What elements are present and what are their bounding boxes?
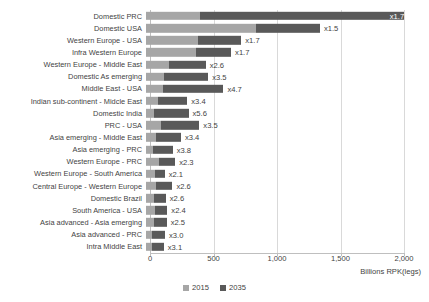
bar-row: Central Europe - Western Europex2.6 (0, 180, 429, 192)
category-label: Infra Western Europe (0, 48, 146, 57)
growth-multiplier-label: x3.0 (165, 230, 183, 239)
category-label: South America - USA (0, 206, 146, 215)
bar-segment-2035 (155, 206, 167, 214)
category-label: Asia advanced - Asia emerging (0, 218, 146, 227)
category-label: Asia emerging - Middle East (0, 133, 146, 142)
bar-row: Western Europe - South Americax2.1 (0, 168, 429, 180)
bar-segment-2015 (146, 12, 200, 20)
stacked-bar[interactable] (146, 133, 181, 141)
growth-multiplier-label: x2.5 (167, 218, 185, 227)
bar-segment-2035 (256, 24, 320, 32)
bar-segment-2035 (159, 158, 176, 166)
growth-multiplier-label: x2.6 (166, 194, 184, 203)
bar-segment-2015 (146, 218, 154, 226)
stacked-bar[interactable] (146, 121, 199, 129)
legend-label: 2015 (192, 283, 209, 292)
stacked-bar[interactable] (146, 230, 165, 238)
stacked-bar[interactable] (146, 194, 166, 202)
legend-swatch-icon (220, 285, 226, 291)
bar-track: x2.3 (146, 156, 429, 168)
bar-segment-2015 (146, 182, 156, 190)
stacked-bar[interactable] (146, 85, 223, 93)
category-label: Middle East - USA (0, 84, 146, 93)
bar-row: Domestic USAx1.5 (0, 22, 429, 34)
category-label: Indian sub-continent - Midcle East (0, 97, 146, 106)
bar-segment-2015 (146, 206, 155, 214)
bar-segment-2035 (152, 243, 164, 251)
category-label: Western Europe - South America (0, 169, 146, 178)
category-label: Western Europe - Middle East (0, 60, 146, 69)
bar-row: Western Europe - PRCx2.3 (0, 156, 429, 168)
bar-segment-2035 (152, 230, 165, 238)
bar-segment-2015 (146, 36, 198, 44)
x-tick-label: 1,500 (331, 254, 350, 263)
legend-item[interactable]: 2015 (183, 283, 209, 292)
growth-multiplier-label: x2.6 (172, 182, 190, 191)
stacked-bar[interactable] (146, 97, 187, 105)
bar-row: Asia emerging - PRCx3.8 (0, 144, 429, 156)
bar-row: Asia advanced - Asia emergingx2.5 (0, 216, 429, 228)
growth-multiplier-label: x1.7 (241, 36, 259, 45)
x-tick-label: 2,000 (394, 254, 413, 263)
legend-swatch-icon (183, 285, 189, 291)
legend-item[interactable]: 2035 (220, 283, 246, 292)
bar-track: x3.5 (146, 71, 429, 83)
bar-track: x2.6 (146, 180, 429, 192)
bar-segment-2015 (146, 133, 156, 141)
category-label: Domestic India (0, 109, 146, 118)
bar-track: x2.4 (146, 204, 429, 216)
bar-track: x2.5 (146, 216, 429, 228)
bar-track: x3.8 (146, 144, 429, 156)
chart-legend: 20152035 (0, 283, 429, 292)
bar-segment-2015 (146, 109, 154, 117)
bar-segment-2035 (198, 36, 241, 44)
bar-segment-2035 (200, 12, 404, 20)
x-tick-label: 500 (207, 254, 220, 263)
stacked-bar[interactable] (146, 218, 167, 226)
growth-multiplier-label: x4.7 (223, 84, 241, 93)
category-label: Asia advanced - PRC (0, 230, 146, 239)
stacked-bar[interactable] (146, 12, 404, 20)
stacked-bar[interactable] (146, 60, 206, 68)
stacked-bar[interactable] (146, 182, 172, 190)
category-label: Domestic Brazil (0, 194, 146, 203)
bar-segment-2015 (146, 121, 161, 129)
stacked-bar[interactable] (146, 170, 165, 178)
category-label: Domestic As emerging (0, 72, 146, 81)
bar-segment-2015 (146, 85, 163, 93)
stacked-bar[interactable] (146, 48, 231, 56)
bar-row: Domestic Brazilx2.6 (0, 192, 429, 204)
growth-multiplier-label: x3.4 (187, 97, 205, 106)
stacked-bar[interactable] (146, 36, 241, 44)
bar-track: x1.7 (146, 34, 429, 46)
category-label: Central Europe - Western Europe (0, 182, 146, 191)
bar-track: x5.6 (146, 107, 429, 119)
growth-multiplier-label: x2.4 (167, 206, 185, 215)
bar-segment-2015 (146, 145, 153, 153)
bar-segment-2015 (146, 158, 159, 166)
stacked-bar[interactable] (146, 73, 208, 81)
x-tick-label: 0 (148, 254, 152, 263)
category-label: Intra Middle East (0, 242, 146, 251)
bar-track: x3.1 (146, 241, 429, 253)
bar-track: x3.5 (146, 119, 429, 131)
stacked-bar[interactable] (146, 206, 167, 214)
stacked-bar[interactable] (146, 24, 320, 32)
bar-row: Domestic As emergingx3.5 (0, 71, 429, 83)
stacked-bar[interactable] (146, 243, 164, 251)
growth-multiplier-label: x3.8 (173, 145, 191, 154)
growth-multiplier-label: x1.7 (231, 48, 249, 57)
bar-chart: Domestic PRCx1.7Domestic USAx1.5Western … (0, 0, 429, 302)
bar-segment-2035 (164, 73, 208, 81)
x-axis-title: Billions RPK(legs) (360, 267, 421, 276)
bar-segment-2015 (146, 194, 154, 202)
category-label: Asia emerging - PRC (0, 145, 146, 154)
bar-segment-2015 (146, 170, 155, 178)
stacked-bar[interactable] (146, 158, 175, 166)
growth-multiplier-label: x1.5 (320, 24, 338, 33)
bar-track: x3.4 (146, 95, 429, 107)
bar-segment-2035 (154, 194, 166, 202)
growth-multiplier-label: x2.6 (206, 60, 224, 69)
stacked-bar[interactable] (146, 145, 173, 153)
stacked-bar[interactable] (146, 109, 189, 117)
